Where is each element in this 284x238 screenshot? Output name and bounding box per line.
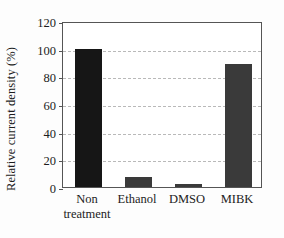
y-axis-title: Relative current density (%): [0, 0, 22, 238]
bar: [125, 177, 152, 187]
x-axis-tick-label: MIBK: [212, 192, 262, 207]
y-axis-tick-label-0: 0: [50, 182, 56, 197]
y-axis-tick-80: [59, 78, 63, 79]
y-axis-tick-label-120: 120: [37, 16, 56, 31]
bar: [75, 49, 102, 187]
y-axis-tick-120: [59, 23, 63, 24]
y-axis-tick-40: [59, 134, 63, 135]
x-axis-tick-label: Ethanol: [112, 192, 162, 207]
bar-chart-figure: Relative current density (%) 02040608010…: [0, 0, 284, 238]
y-axis-tick-20: [59, 161, 63, 162]
y-axis-tick-label-40: 40: [44, 126, 57, 141]
bar: [175, 184, 202, 187]
y-axis-tick-100: [59, 51, 63, 52]
bar: [225, 64, 252, 187]
y-axis-tick-0: [59, 189, 63, 190]
y-axis-tick-label-60: 60: [44, 99, 57, 114]
y-axis-tick-label-80: 80: [44, 71, 57, 86]
y-axis-tick-label-100: 100: [37, 43, 56, 58]
plot-area: 020406080100120: [62, 22, 262, 188]
x-axis-tick-label: Non treatment: [62, 192, 112, 222]
x-axis-tick-label: DMSO: [162, 192, 212, 207]
y-axis-tick-label-20: 20: [44, 154, 57, 169]
y-axis-tick-60: [59, 106, 63, 107]
